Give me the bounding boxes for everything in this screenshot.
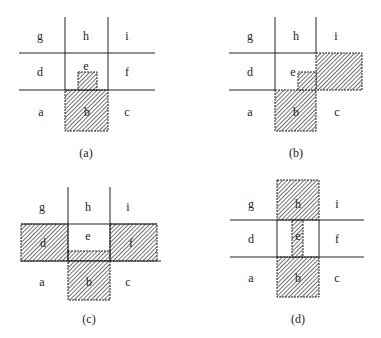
panel-b: g h i d e a b c (b): [229, 17, 362, 160]
cell-label-d: d: [248, 232, 254, 246]
cell-label-f: f: [129, 236, 133, 250]
shaded-e-square: [78, 72, 97, 90]
shaded-e-square: [298, 72, 316, 90]
cell-label-a: a: [248, 271, 254, 285]
cell-label-b: b: [84, 105, 90, 119]
cell-label-f: f: [125, 65, 129, 79]
cell-label-g: g: [39, 200, 45, 214]
cell-label-b: b: [293, 105, 299, 119]
shaded-e-strip: [68, 251, 110, 261]
cell-label-c: c: [334, 105, 339, 119]
cell-label-e: e: [295, 229, 300, 243]
cell-label-a: a: [38, 105, 44, 119]
cell-label-h: h: [83, 29, 89, 43]
cell-label-a: a: [39, 275, 45, 289]
cell-label-d: d: [247, 65, 253, 79]
cell-label-d: d: [37, 65, 43, 79]
cell-label-e: e: [83, 59, 88, 73]
cell-label-i: i: [126, 200, 130, 214]
panel-caption: (c): [82, 312, 95, 326]
panel-caption: (b): [289, 146, 303, 160]
panel-d: g h i d e f a b c (d): [230, 180, 364, 326]
cell-label-c: c: [334, 271, 339, 285]
cell-label-b: b: [86, 275, 92, 289]
cell-label-g: g: [247, 29, 253, 43]
cell-label-i: i: [125, 29, 129, 43]
cell-label-f: f: [335, 232, 339, 246]
cell-label-i: i: [335, 197, 339, 211]
shaded-f: [110, 224, 157, 261]
cell-label-a: a: [247, 105, 253, 119]
cell-label-b: b: [295, 271, 301, 285]
cell-label-h: h: [295, 197, 301, 211]
cell-label-h: h: [293, 29, 299, 43]
shaded-f: [316, 53, 362, 90]
cell-label-e: e: [290, 65, 295, 79]
panel-a: g h i d e f a b c (a): [19, 17, 155, 160]
panel-caption: (d): [291, 312, 305, 326]
figure-canvas: g h i d e f a b c (a) g h i d e a b c (b…: [0, 0, 381, 338]
cell-label-g: g: [248, 197, 254, 211]
cell-label-c: c: [125, 275, 130, 289]
cell-label-i: i: [334, 29, 338, 43]
cell-label-e: e: [85, 229, 90, 243]
cell-label-g: g: [37, 29, 43, 43]
cell-label-h: h: [85, 200, 91, 214]
panel-caption: (a): [79, 146, 92, 160]
cell-label-c: c: [124, 105, 129, 119]
panel-c: g h i d e f a b c (c): [20, 187, 161, 326]
cell-label-d: d: [40, 236, 46, 250]
